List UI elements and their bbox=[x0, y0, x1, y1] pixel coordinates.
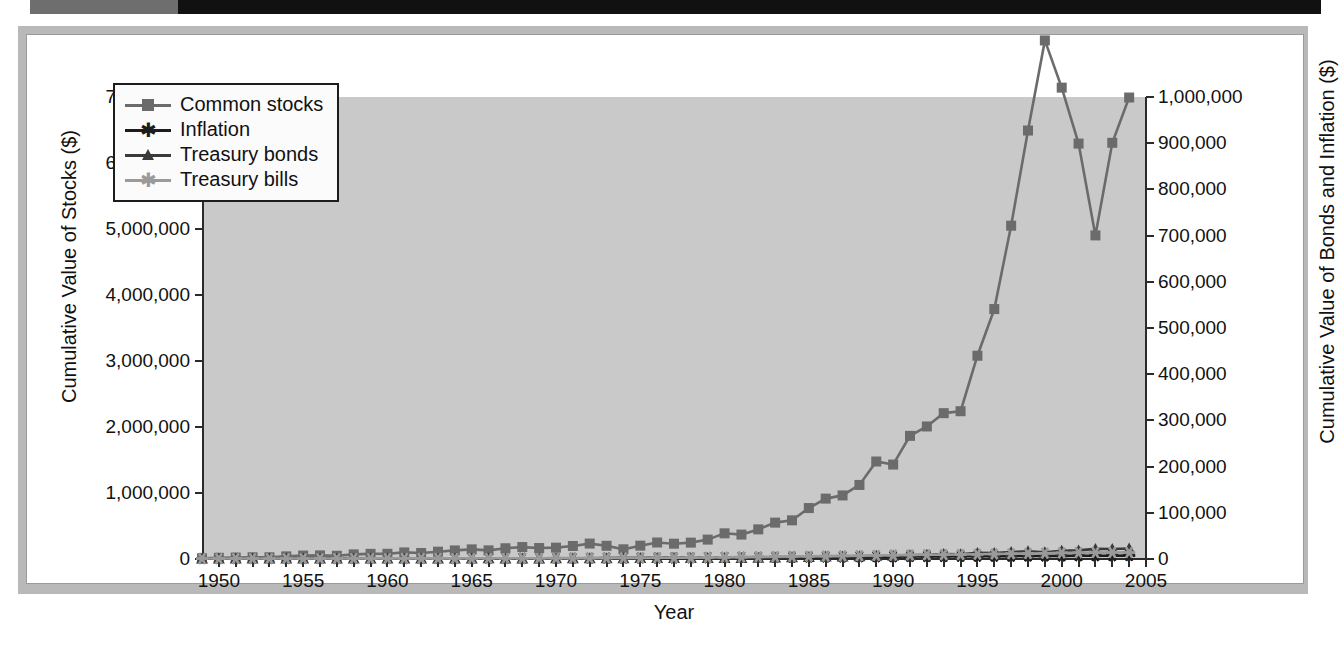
y-axis-right-title: Cumulative Value of Bonds and Inflation … bbox=[1316, 2, 1339, 502]
data-point bbox=[787, 515, 797, 525]
square-marker-icon bbox=[125, 98, 171, 112]
line-chart: 01,000,0002,000,0003,000,0004,000,0005,0… bbox=[27, 35, 1315, 591]
data-point bbox=[871, 457, 881, 467]
legend-item-label: Treasury bills bbox=[180, 168, 298, 191]
data-point bbox=[568, 541, 578, 551]
data-point bbox=[517, 542, 527, 552]
x-axis-title: Year bbox=[202, 601, 1146, 624]
legend-item[interactable]: ✱ Inflation bbox=[125, 117, 323, 142]
data-point bbox=[1023, 126, 1033, 136]
star-marker-icon: ✱ bbox=[125, 123, 171, 137]
data-point bbox=[1124, 93, 1134, 103]
data-point bbox=[854, 480, 864, 490]
y-axis-left-title: Cumulative Value of Stocks ($) bbox=[58, 57, 81, 477]
legend-item[interactable]: Common stocks bbox=[125, 92, 323, 117]
page-header-bar-right bbox=[178, 0, 1321, 14]
data-point bbox=[821, 494, 831, 504]
data-point bbox=[534, 543, 544, 553]
legend-item-label: Common stocks bbox=[180, 93, 323, 116]
legend-item-label: Treasury bonds bbox=[180, 143, 318, 166]
data-point bbox=[770, 518, 780, 528]
data-point bbox=[1040, 35, 1050, 45]
data-point bbox=[720, 528, 730, 538]
triangle-marker-icon bbox=[125, 148, 171, 162]
data-point bbox=[652, 538, 662, 548]
data-point bbox=[1074, 139, 1084, 149]
legend-item[interactable]: ✱ Treasury bills bbox=[125, 167, 323, 192]
series-line bbox=[202, 40, 1129, 558]
data-point bbox=[686, 538, 696, 548]
figure-frame: 01,000,0002,000,0003,000,0004,000,0005,0… bbox=[18, 26, 1308, 594]
data-point bbox=[585, 539, 595, 549]
data-point bbox=[753, 524, 763, 534]
data-point bbox=[956, 406, 966, 416]
data-point bbox=[736, 530, 746, 540]
data-point bbox=[1057, 83, 1067, 93]
legend-item-label: Inflation bbox=[180, 118, 250, 141]
data-point bbox=[551, 543, 561, 553]
data-point bbox=[1006, 221, 1016, 231]
data-point bbox=[1107, 138, 1117, 148]
data-point bbox=[922, 421, 932, 431]
data-point bbox=[500, 543, 510, 553]
figure-panel: 01,000,0002,000,0003,000,0004,000,0005,0… bbox=[26, 34, 1304, 584]
data-point bbox=[1090, 230, 1100, 240]
data-point bbox=[888, 460, 898, 470]
page-header-bar-left bbox=[30, 0, 178, 14]
data-point bbox=[838, 490, 848, 500]
data-point bbox=[602, 541, 612, 551]
data-point bbox=[703, 535, 713, 545]
data-point bbox=[972, 351, 982, 361]
legend-item[interactable]: Treasury bonds bbox=[125, 142, 323, 167]
data-point bbox=[939, 408, 949, 418]
star-marker-icon: ✱ bbox=[125, 173, 171, 187]
data-point bbox=[804, 503, 814, 513]
data-point bbox=[635, 541, 645, 551]
chart-legend: Common stocks ✱ Inflation bbox=[113, 83, 339, 202]
data-point bbox=[989, 304, 999, 314]
data-point bbox=[669, 539, 679, 549]
data-point bbox=[905, 431, 915, 441]
